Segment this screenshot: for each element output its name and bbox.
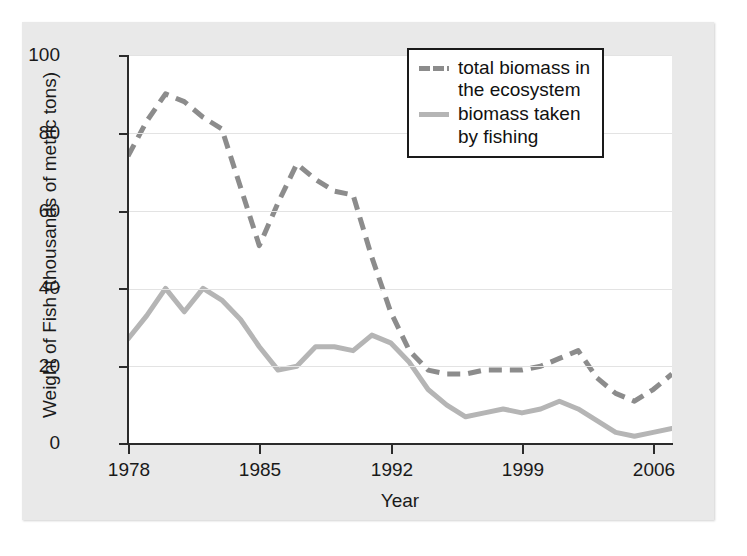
gridline-20	[128, 366, 672, 367]
y-axis-line	[127, 55, 129, 445]
y-tick-mark-0	[119, 443, 128, 445]
x-axis-line	[127, 443, 673, 445]
x-tick-label-1999: 1999	[483, 459, 563, 481]
legend-swatch-solid-icon	[419, 112, 449, 117]
chart-legend: total biomass in the ecosystem biomass t…	[407, 48, 604, 158]
legend-label-total-biomass: total biomass in the ecosystem	[458, 57, 590, 101]
x-tick-label-1978: 1978	[89, 459, 169, 481]
y-tick-label-40: 40	[0, 278, 60, 297]
y-tick-label-0: 0	[0, 433, 60, 452]
y-axis-title: Weight of Fish (thousands of metric tons…	[39, 35, 61, 455]
gridline-40	[128, 289, 672, 290]
y-tick-label-80: 80	[0, 123, 60, 142]
x-tick-mark-1978	[128, 444, 130, 454]
x-tick-mark-1999	[522, 444, 524, 454]
y-tick-mark-100	[119, 55, 128, 57]
x-axis-title: Year	[128, 490, 672, 512]
y-tick-mark-80	[119, 133, 128, 135]
x-tick-mark-2006	[653, 444, 655, 454]
x-tick-mark-1992	[391, 444, 393, 454]
figure-panel: Weight of Fish (thousands of metric tons…	[22, 22, 714, 520]
y-tick-label-20: 20	[0, 356, 60, 375]
x-tick-label-2006: 2006	[614, 459, 694, 481]
y-tick-mark-40	[119, 288, 128, 290]
legend-item-biomass-taken: biomass taken by fishing	[419, 103, 590, 147]
x-tick-mark-1985	[259, 444, 261, 454]
x-tick-label-1985: 1985	[220, 459, 300, 481]
y-tick-mark-20	[119, 366, 128, 368]
legend-item-total-biomass: total biomass in the ecosystem	[419, 57, 590, 101]
y-tick-label-60: 60	[0, 201, 60, 220]
y-tick-mark-60	[119, 211, 128, 213]
series-line-biomass-taken-by-fishing	[128, 288, 672, 436]
gridline-60	[128, 211, 672, 212]
y-tick-label-100: 100	[0, 45, 60, 64]
legend-label-biomass-taken: biomass taken by fishing	[458, 103, 581, 147]
legend-swatch-dashed-icon	[419, 66, 449, 71]
x-tick-label-1992: 1992	[352, 459, 432, 481]
